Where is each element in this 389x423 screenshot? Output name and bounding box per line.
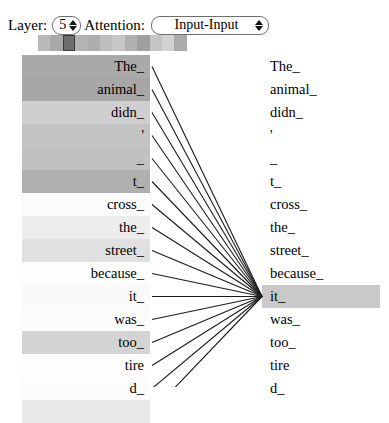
source-token-row[interactable]: cross_: [22, 193, 150, 216]
target-token-label: The_: [262, 55, 380, 78]
target-token-label: cross_: [262, 193, 380, 216]
control-bar: Layer: 5 Attention: Input-Input: [0, 13, 389, 37]
target-token-label: the_: [262, 216, 380, 239]
target-token-row[interactable]: ': [262, 124, 380, 147]
source-token-label: didn_: [22, 101, 150, 124]
source-token-row[interactable]: didn_: [22, 101, 150, 124]
target-token-row[interactable]: animal_: [262, 78, 380, 101]
source-token-row[interactable]: street_: [22, 239, 150, 262]
layer-spinner-arrows-icon[interactable]: [69, 20, 77, 31]
target-token-label: tire: [262, 354, 380, 377]
target-token-label: t_: [262, 170, 380, 193]
attention-label: Attention:: [84, 18, 145, 33]
head-cell-11[interactable]: [174, 35, 186, 51]
attention-head-selector[interactable]: [38, 35, 187, 51]
target-token-label: d_: [262, 377, 380, 400]
head-cell-5[interactable]: [100, 35, 112, 51]
target-token-row[interactable]: street_: [262, 239, 380, 262]
target-token-label: _: [262, 147, 380, 170]
attention-select[interactable]: Input-Input: [151, 16, 269, 35]
source-token-label: cross_: [22, 193, 150, 216]
source-token-label: d_: [22, 377, 150, 400]
source-token-label: because_: [22, 262, 150, 285]
source-token-label: was_: [22, 308, 150, 331]
source-token-label: too_: [22, 331, 150, 354]
target-token-label: didn_: [262, 101, 380, 124]
source-token-label: [22, 400, 150, 423]
target-token-row[interactable]: too_: [262, 331, 380, 354]
target-token-row[interactable]: because_: [262, 262, 380, 285]
head-cell-10[interactable]: [162, 35, 174, 51]
source-token-row[interactable]: ': [22, 124, 150, 147]
layer-spinner[interactable]: 5: [52, 16, 81, 35]
source-token-label: The_: [22, 55, 150, 78]
attention-value: Input-Input: [158, 18, 255, 32]
head-cell-0[interactable]: [38, 35, 50, 51]
head-cell-1[interactable]: [50, 35, 62, 51]
attention-select-arrows-icon[interactable]: [255, 20, 263, 31]
source-token-row[interactable]: was_: [22, 308, 150, 331]
head-cell-7[interactable]: [125, 35, 137, 51]
source-token-label: street_: [22, 239, 150, 262]
source-token-row[interactable]: because_: [22, 262, 150, 285]
source-token-label: t_: [22, 170, 150, 193]
layer-value: 5: [59, 18, 69, 32]
source-token-label: tire: [22, 354, 150, 377]
target-token-row[interactable]: was_: [262, 308, 380, 331]
target-token-row[interactable]: cross_: [262, 193, 380, 216]
head-cell-3[interactable]: [75, 35, 87, 51]
target-token-label: was_: [262, 308, 380, 331]
target-token-row[interactable]: tire: [262, 354, 380, 377]
attention-visualization: The_animal_didn_'_t_cross_the_street_bec…: [0, 51, 389, 387]
source-token-row[interactable]: _: [22, 147, 150, 170]
target-token-label: ': [262, 124, 380, 147]
source-token-row[interactable]: too_: [22, 331, 150, 354]
target-token-label: too_: [262, 331, 380, 354]
source-token-row[interactable]: animal_: [22, 78, 150, 101]
target-token-row[interactable]: The_: [262, 55, 380, 78]
target-token-row[interactable]: t_: [262, 170, 380, 193]
source-token-label: _: [22, 147, 150, 170]
source-token-row[interactable]: The_: [22, 55, 150, 78]
head-cell-9[interactable]: [150, 35, 162, 51]
source-token-row[interactable]: [22, 400, 150, 423]
target-token-row[interactable]: _: [262, 147, 380, 170]
head-cell-6[interactable]: [112, 35, 124, 51]
head-cell-8[interactable]: [137, 35, 149, 51]
layer-label: Layer:: [8, 18, 47, 33]
source-token-label: ': [22, 124, 150, 147]
target-token-row[interactable]: it_: [262, 285, 380, 308]
source-token-row[interactable]: tire: [22, 354, 150, 377]
source-token-label: animal_: [22, 78, 150, 101]
source-token-row[interactable]: t_: [22, 170, 150, 193]
head-cell-2[interactable]: [63, 35, 75, 51]
head-cell-4[interactable]: [88, 35, 100, 51]
target-token-label: it_: [262, 285, 380, 308]
target-token-row[interactable]: d_: [262, 377, 380, 400]
source-token-row[interactable]: the_: [22, 216, 150, 239]
target-token-label: animal_: [262, 78, 380, 101]
source-token-row[interactable]: it_: [22, 285, 150, 308]
target-token-label: street_: [262, 239, 380, 262]
target-token-row[interactable]: didn_: [262, 101, 380, 124]
source-token-label: it_: [22, 285, 150, 308]
source-token-label: the_: [22, 216, 150, 239]
target-token-row[interactable]: the_: [262, 216, 380, 239]
source-token-row[interactable]: d_: [22, 377, 150, 400]
target-token-label: because_: [262, 262, 380, 285]
